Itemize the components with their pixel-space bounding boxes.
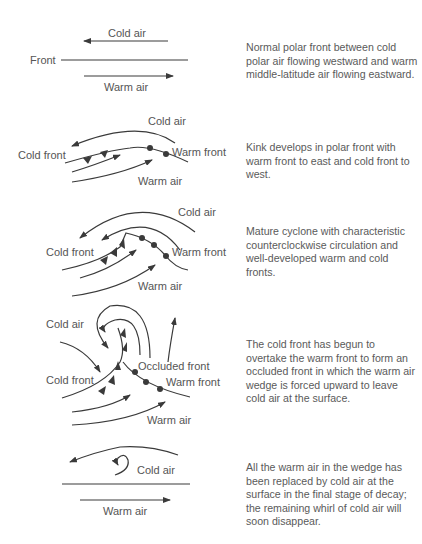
stage-4-occluded-front-label: Occluded front: [138, 360, 210, 372]
stage-3-front-symbols: [100, 235, 169, 265]
stage-1-diagram: [61, 41, 188, 76]
stage-1-warm-air-label: Warm air: [104, 81, 149, 93]
stage-3-warm-front-label: Warm front: [172, 246, 226, 258]
stage-1-description: Normal polar front between cold polar ai…: [246, 41, 418, 82]
stage-1-cold-air-label: Cold air: [108, 27, 146, 39]
cold-air-whirl: [115, 455, 128, 475]
stage-1-front-label: Front: [30, 54, 56, 66]
stage-5-cold-air-label: Cold air: [137, 464, 175, 476]
kinked-front-line: [65, 147, 188, 163]
stage-2-warm-air-label: Warm air: [138, 175, 183, 187]
cold-air-swirl-inner: [104, 319, 140, 355]
stage-2-cold-air-label: Cold air: [148, 115, 186, 127]
cold-air-arrow: [72, 131, 175, 146]
cold-front-line: [62, 328, 123, 398]
stage-2-cold-front-label: Cold front: [18, 149, 66, 161]
stage-2-description: Kink develops in polar front with warm f…: [246, 141, 418, 182]
stage-4-cold-front-label: Cold front: [46, 374, 94, 386]
stage-4-cold-air-label: Cold air: [46, 318, 84, 330]
stage-4-warm-front-label: Warm front: [166, 376, 220, 388]
stage-5-description: All the warm air in the wedge has been r…: [246, 461, 418, 529]
cold-air-arrow: [60, 342, 100, 372]
stage-3-cold-front-label: Cold front: [46, 246, 94, 258]
warm-air-arrow: [72, 395, 130, 412]
stage-3-description: Mature cyclone with characteristic count…: [246, 225, 418, 279]
warm-air-up-arrow: [168, 318, 175, 362]
stage-4-warm-air-label: Warm air: [147, 414, 192, 426]
stage-4-description: The cold front has begun to overtake the…: [246, 338, 418, 406]
cold-air-arrow: [70, 447, 178, 462]
warm-air-arrow: [72, 155, 120, 172]
stage-3-warm-air-label: Warm air: [138, 280, 183, 292]
stage-2-warm-front-label: Warm front: [172, 146, 226, 158]
stage-3-cold-air-label: Cold air: [178, 206, 216, 218]
stage-5-warm-air-label: Warm air: [103, 505, 148, 517]
